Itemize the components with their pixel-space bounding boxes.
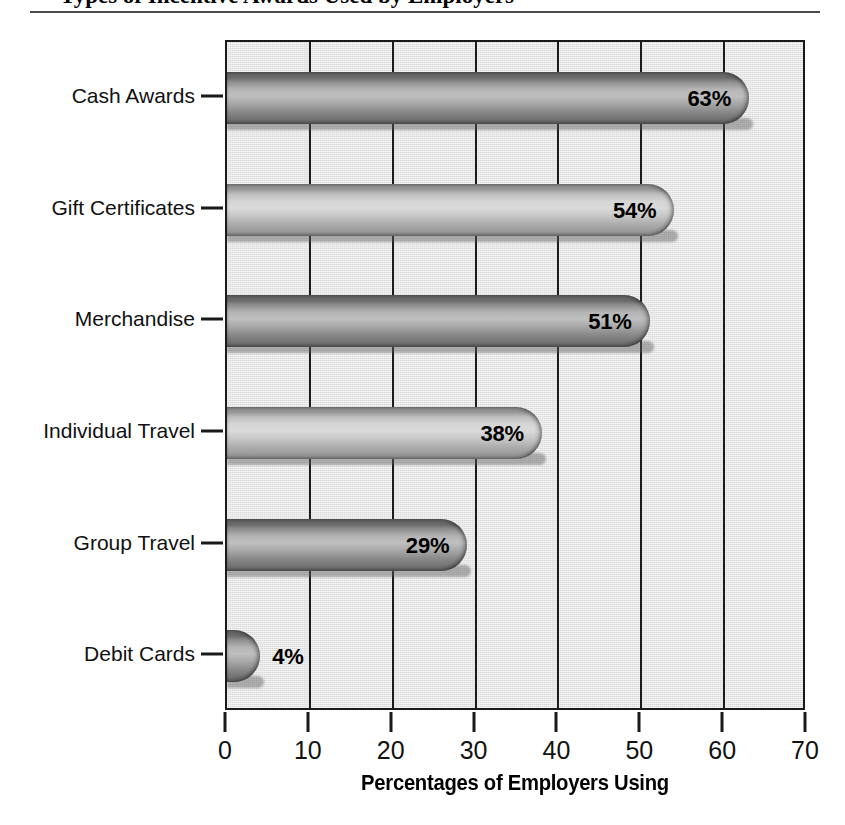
- x-tick-label-60: 60: [708, 736, 736, 765]
- category-label-gift-certificates: Gift Certificates: [51, 196, 195, 220]
- category-tick-stub: [201, 94, 223, 97]
- gridline-10: [309, 42, 311, 708]
- category-tick-stub: [201, 206, 223, 209]
- plot-area: 63%54%51%38%29%4%: [225, 40, 805, 710]
- category-label-debit-cards: Debit Cards: [84, 642, 195, 666]
- plot-texture-overlay: [227, 42, 803, 708]
- gridline-30: [475, 42, 477, 708]
- x-tick-label-0: 0: [218, 736, 232, 765]
- bar-value-label: 38%: [470, 421, 524, 447]
- x-tick-label-70: 70: [791, 736, 819, 765]
- bar-debit-cards[interactable]: [227, 630, 260, 682]
- category-label-individual-travel: Individual Travel: [43, 419, 195, 443]
- bar-value-label: 54%: [602, 198, 656, 224]
- bar-value-label: 63%: [677, 86, 731, 112]
- x-tick-label-50: 50: [625, 736, 653, 765]
- bar-value-label: 51%: [578, 309, 632, 335]
- category-label-group-travel: Group Travel: [74, 531, 195, 555]
- x-tick-60: [721, 712, 724, 732]
- x-tick-label-30: 30: [460, 736, 488, 765]
- gridline-60: [723, 42, 725, 708]
- category-tick-stub: [201, 318, 223, 321]
- x-tick-label-10: 10: [294, 736, 322, 765]
- category-label-cash-awards: Cash Awards: [72, 84, 195, 108]
- bar-value-label: 29%: [395, 533, 449, 559]
- x-tick-label-20: 20: [377, 736, 405, 765]
- x-tick-20: [389, 712, 392, 732]
- category-label-merchandise: Merchandise: [75, 307, 195, 331]
- gridline-20: [392, 42, 394, 708]
- x-tick-label-40: 40: [543, 736, 571, 765]
- x-tick-40: [555, 712, 558, 732]
- gridline-40: [557, 42, 559, 708]
- x-tick-50: [638, 712, 641, 732]
- gridline-50: [640, 42, 642, 708]
- x-tick-0: [224, 712, 227, 732]
- x-axis-title: Percentages of Employers Using: [248, 770, 782, 796]
- category-tick-stub: [201, 429, 223, 432]
- x-tick-30: [472, 712, 475, 732]
- x-tick-10: [306, 712, 309, 732]
- bar-cash-awards[interactable]: [227, 72, 749, 124]
- bar-chart-figure: 63%54%51%38%29%4% Cash AwardsGift Certif…: [0, 0, 845, 825]
- category-tick-stub: [201, 653, 223, 656]
- x-tick-70: [804, 712, 807, 732]
- category-tick-stub: [201, 541, 223, 544]
- bar-value-label: 4%: [272, 644, 303, 670]
